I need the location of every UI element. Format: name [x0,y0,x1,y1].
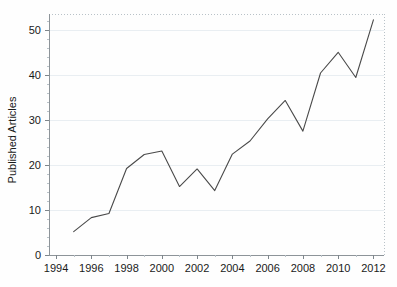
x-tick-label: 2010 [326,262,350,274]
y-axis-title: Published Articles [6,96,18,183]
x-tick-label: 2012 [361,262,385,274]
y-tick-label: 20 [29,159,41,171]
y-axis-tick-labels: 01020304050 [29,24,41,261]
y-tick-label: 0 [35,249,41,261]
x-tick-label: 1996 [79,262,103,274]
data-series-group [74,20,374,232]
y-tick-label: 30 [29,114,41,126]
y-tick-label: 10 [29,204,41,216]
x-tick-label: 2004 [220,262,244,274]
x-tick-label: 2000 [150,262,174,274]
x-tick-label: 2002 [185,262,209,274]
chart-container: 01020304050 1994199619982000200220042006… [0,0,397,287]
line-chart: 01020304050 1994199619982000200220042006… [0,0,397,287]
y-tick-label: 50 [29,24,41,36]
x-tick-label: 1994 [44,262,68,274]
data-series-line [74,20,374,232]
y-axis-ticks [45,22,49,256]
x-tick-label: 2006 [255,262,279,274]
x-tick-label: 1998 [114,262,138,274]
x-tick-label: 2008 [291,262,315,274]
x-axis-tick-labels: 1994199619982000200220042006200820102012 [44,262,386,274]
grid-lines [49,31,384,256]
y-tick-label: 40 [29,69,41,81]
